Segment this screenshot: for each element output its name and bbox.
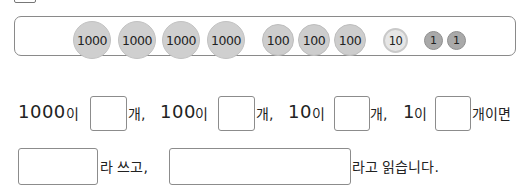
label-1000: 1000 [18, 102, 66, 122]
particle-i: 이 [66, 104, 79, 124]
coin-1000: 1000 [73, 21, 111, 59]
label-100: 100 [160, 102, 196, 122]
coin-1000: 1000 [118, 21, 156, 59]
answer-box-read-number[interactable] [169, 148, 351, 185]
label-gae: 개, [256, 104, 273, 124]
label-gae: 개, [128, 104, 145, 124]
answer-box-10-count[interactable] [334, 96, 370, 131]
label-10: 10 [288, 102, 312, 122]
label-rago-ilksseumnida: 라고 읽습니다. [352, 157, 439, 177]
answer-box-1000-count[interactable] [90, 96, 127, 131]
particle-i: 이 [312, 104, 325, 124]
label-gae: 개, [370, 104, 387, 124]
question-number-box [14, 0, 36, 3]
coin-1: 1 [447, 31, 466, 50]
coin-100: 100 [334, 24, 366, 56]
answer-box-1-count[interactable] [435, 96, 471, 131]
coin-1: 1 [424, 31, 443, 50]
particle-i: 이 [195, 104, 208, 124]
label-gae-imyeon: 개이면 [472, 104, 511, 124]
coin-1000: 1000 [162, 21, 200, 59]
coin-1000: 1000 [207, 21, 245, 59]
coin-100: 100 [262, 24, 294, 56]
answer-box-100-count[interactable] [218, 96, 255, 131]
label-ra-sseugo: 라 쓰고, [100, 157, 148, 177]
particle-i: 이 [414, 104, 427, 124]
answer-box-written-number[interactable] [18, 148, 98, 185]
coin-10: 10 [383, 28, 408, 53]
coin-100: 100 [298, 24, 330, 56]
